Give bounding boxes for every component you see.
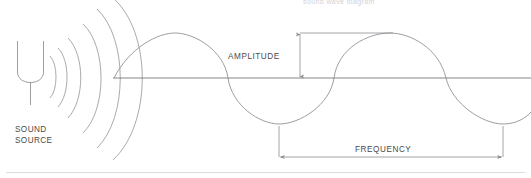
sound-arc-5 (97, 9, 120, 148)
sound-wave-arcs (50, 0, 142, 160)
sound-arc-2 (58, 48, 67, 107)
frequency-label: FREQUENCY (355, 145, 411, 154)
sound-source-label-line1: SOUND (15, 125, 47, 134)
amplitude-dimension: AMPLITUDE (228, 33, 393, 77)
tuning-fork-icon (18, 41, 44, 105)
sound-source-label-line2: SOURCE (15, 136, 53, 145)
amplitude-label: AMPLITUDE (228, 52, 280, 61)
diagram-svg: sound wave diagram (0, 0, 531, 178)
sound-arc-1 (50, 56, 56, 98)
frequency-dimension: FREQUENCY (279, 126, 503, 157)
sound-source-caption: SOUND SOURCE (15, 125, 53, 145)
clipped-title-text: sound wave diagram (303, 0, 375, 6)
sound-arc-6 (113, 0, 142, 160)
sound-arc-4 (83, 24, 101, 133)
clipped-title-ghost: sound wave diagram (303, 0, 375, 6)
sound-arc-3 (68, 38, 81, 118)
sine-waveform (114, 33, 531, 124)
sound-wave-diagram: sound wave diagram (0, 0, 531, 178)
